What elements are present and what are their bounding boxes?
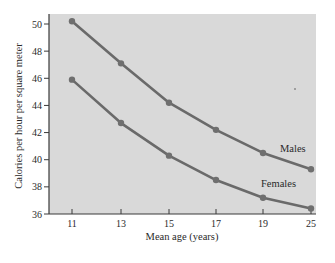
line-chart: 3638404244464850 111315171925 MalesFemal… bbox=[0, 0, 335, 263]
y-tick-label: 50 bbox=[32, 19, 42, 30]
data-point-marker bbox=[118, 120, 124, 126]
data-point-marker bbox=[213, 127, 219, 133]
females-series-label: Females bbox=[261, 178, 296, 189]
data-point-marker bbox=[69, 18, 75, 24]
x-tick-label: 15 bbox=[164, 218, 174, 229]
x-tick-label: 11 bbox=[67, 218, 77, 229]
data-point-marker bbox=[260, 150, 266, 156]
y-axis-title: Calories per hour per square meter bbox=[13, 43, 24, 189]
y-tick-label: 38 bbox=[32, 181, 42, 192]
data-point-marker bbox=[260, 195, 266, 201]
speck-dot bbox=[294, 88, 296, 90]
y-tick-label: 42 bbox=[32, 127, 42, 138]
y-tick-label: 44 bbox=[32, 100, 42, 111]
y-tick-label: 48 bbox=[32, 46, 42, 57]
data-point-marker bbox=[166, 100, 172, 106]
x-axis-title: Mean age (years) bbox=[146, 231, 219, 243]
y-axis: 3638404244464850 bbox=[32, 14, 49, 220]
x-tick-label: 17 bbox=[211, 218, 221, 229]
data-point-marker bbox=[69, 76, 75, 82]
x-tick-label: 19 bbox=[258, 218, 268, 229]
x-tick-label: 13 bbox=[116, 218, 126, 229]
males-series-label: Males bbox=[280, 143, 306, 154]
data-point-marker bbox=[308, 166, 314, 172]
data-point-marker bbox=[308, 205, 314, 211]
y-tick-label: 36 bbox=[32, 209, 42, 220]
data-point-marker bbox=[118, 60, 124, 66]
x-tick-label: 25 bbox=[306, 218, 316, 229]
data-point-marker bbox=[213, 177, 219, 183]
y-tick-label: 46 bbox=[32, 73, 42, 84]
y-tick-label: 40 bbox=[32, 154, 42, 165]
data-point-marker bbox=[166, 152, 172, 158]
